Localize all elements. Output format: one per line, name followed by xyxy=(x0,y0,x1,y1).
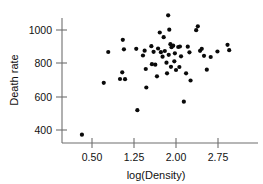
data-point xyxy=(160,55,164,59)
data-point xyxy=(209,55,213,59)
x-tick-label-125: 1.25 xyxy=(124,151,145,163)
data-point xyxy=(166,13,170,17)
scatter-plot-figure: 1000 800 600 400 Death rate 0.50 1.25 2.… xyxy=(0,0,263,184)
data-point xyxy=(179,54,183,58)
data-points-layer xyxy=(80,13,231,137)
x-tick-label-275: 2.75 xyxy=(208,151,229,163)
y-tick-label-400: 400 xyxy=(34,124,52,136)
x-tick-label-050: 0.50 xyxy=(82,151,103,163)
data-point xyxy=(155,74,159,78)
y-tick-label-800: 800 xyxy=(34,57,52,69)
data-point xyxy=(164,61,168,65)
data-point xyxy=(205,68,209,72)
y-axis-title: Death rate xyxy=(8,54,20,105)
data-point xyxy=(134,47,138,51)
data-point xyxy=(187,50,191,54)
data-point xyxy=(202,54,206,58)
data-point xyxy=(182,100,186,104)
data-point xyxy=(121,38,125,42)
x-axis-title: log(Density) xyxy=(127,169,186,181)
data-point xyxy=(156,46,160,50)
data-point xyxy=(188,78,192,82)
data-point xyxy=(122,47,126,51)
data-point xyxy=(174,68,178,72)
data-point xyxy=(167,28,171,32)
data-point xyxy=(118,77,122,81)
data-point xyxy=(227,48,231,52)
data-point xyxy=(162,35,166,39)
data-point xyxy=(80,133,84,137)
data-point xyxy=(102,81,106,85)
data-point xyxy=(215,49,219,53)
data-point xyxy=(194,28,198,32)
data-point xyxy=(200,47,204,51)
data-point xyxy=(225,43,229,47)
data-point xyxy=(177,65,181,69)
data-point xyxy=(171,44,175,48)
data-point xyxy=(163,49,167,53)
data-point xyxy=(172,59,176,63)
data-point xyxy=(178,44,182,48)
y-tick-label-600: 600 xyxy=(34,91,52,103)
data-point xyxy=(106,50,110,54)
data-point xyxy=(169,65,173,69)
data-point xyxy=(152,50,156,54)
plot-canvas: 1000 800 600 400 Death rate 0.50 1.25 2.… xyxy=(0,0,263,184)
data-point xyxy=(144,85,148,89)
data-point xyxy=(165,71,169,75)
data-point xyxy=(120,70,124,74)
data-point xyxy=(173,51,177,55)
y-tick-label-1000: 1000 xyxy=(29,24,53,36)
data-point xyxy=(149,44,153,48)
data-point xyxy=(153,63,157,67)
data-point xyxy=(158,30,162,34)
data-point xyxy=(135,108,139,112)
data-point xyxy=(141,53,145,57)
data-point xyxy=(143,49,147,53)
data-point xyxy=(184,71,188,75)
data-point xyxy=(159,50,163,54)
data-point xyxy=(186,45,190,49)
data-point xyxy=(123,77,127,81)
data-point xyxy=(167,53,171,57)
x-tick-label-200: 2.00 xyxy=(166,151,187,163)
data-point xyxy=(144,67,148,71)
data-point xyxy=(196,24,200,28)
